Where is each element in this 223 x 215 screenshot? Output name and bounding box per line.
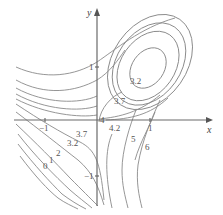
y-tick-label-1: 1: [89, 62, 94, 72]
closed-contours: [90, 0, 210, 126]
x-tick-label-1: 1: [148, 123, 153, 133]
level-label-5: 5: [131, 134, 136, 144]
level-label-4: 4: [100, 115, 105, 125]
level-label-0: 0: [43, 161, 48, 171]
level-label-4-2: 4.2: [109, 123, 120, 133]
lower-right-contours: [107, 100, 160, 208]
level-label-inner-3-2: 3.2: [130, 76, 141, 86]
level-label-upper-3-7: 3.7: [114, 96, 126, 106]
level-label-1: 1: [49, 155, 54, 165]
level-label-6: 6: [145, 142, 150, 152]
level-label-left-3-2: 3.2: [67, 138, 78, 148]
contour-plot: y x −1 1 1 −1 3.2 3.7 4 4.2 5 6 3.7 3.2 …: [0, 0, 223, 215]
y-axis-arrow-icon: [94, 8, 100, 16]
y-axis-label: y: [86, 7, 92, 18]
level-label-2: 2: [56, 148, 61, 158]
x-axis-label: x: [206, 124, 212, 135]
x-tick-label-neg1: −1: [39, 123, 49, 133]
y-tick-label-neg1: −1: [84, 171, 94, 181]
x-axis-arrow-icon: [206, 117, 213, 123]
